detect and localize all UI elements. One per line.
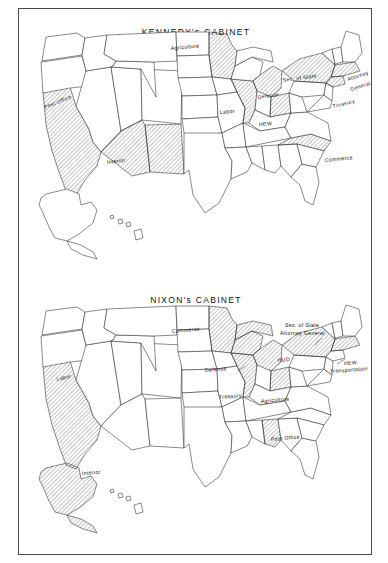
state-mt <box>104 32 177 62</box>
state-pa <box>289 355 326 371</box>
state-nm <box>145 124 184 174</box>
state-ks <box>182 369 218 393</box>
label-commerce: Commerce <box>324 154 353 163</box>
state-al <box>262 419 281 447</box>
label-attorney-general-line2: General <box>349 80 371 92</box>
state-pa <box>289 81 326 97</box>
label-hew: HEW <box>344 359 358 366</box>
state-hi-4 <box>134 503 143 514</box>
state-hi-3 <box>126 222 131 227</box>
state-hi-1 <box>110 489 114 493</box>
page-frame: KENNEDY's CABINET 1960 <box>18 8 372 555</box>
state-mn <box>209 32 237 79</box>
us-map-nixon: #panel-bottom .state.hatched{fill:url(#h… <box>19 283 373 556</box>
map-panel-kennedy: KENNEDY's CABINET 1960 <box>19 9 373 282</box>
state-al <box>262 145 281 173</box>
label-hew: HEW <box>259 120 272 127</box>
state-or <box>41 56 88 93</box>
state-nm <box>145 398 184 448</box>
state-ak-tail <box>67 241 97 259</box>
label-transportation: Transportation <box>330 365 368 374</box>
state-ma <box>331 336 360 351</box>
label-hud: HUD <box>278 356 291 363</box>
us-map-kennedy: Agriculture Post Office Interior Labor D… <box>19 9 373 282</box>
state-ks <box>182 95 218 119</box>
state-ak-tail <box>67 515 97 533</box>
state-ak <box>39 189 97 241</box>
label-attorney-general: Attorney General <box>280 330 325 336</box>
state-hi-3 <box>126 496 131 501</box>
map-panel-nixon: NIXON's CABINET 1968 #panel-bottom .stat… <box>19 283 373 556</box>
state-sd <box>177 55 212 78</box>
state-hi-1 <box>110 215 114 219</box>
label-interior: Interior <box>82 469 101 476</box>
label-treasury: Treasury <box>332 98 356 109</box>
state-mn <box>209 306 237 353</box>
state-hi-4 <box>134 229 143 240</box>
state-me <box>341 305 362 336</box>
label-sec-of-state: Sec. of State <box>285 322 319 328</box>
state-ne <box>178 77 217 96</box>
state-hi-2 <box>118 219 123 224</box>
state-or <box>41 330 88 367</box>
state-mt <box>104 306 177 336</box>
states-layer-kennedy <box>39 31 362 259</box>
state-hi-2 <box>118 493 123 498</box>
state-me <box>341 31 362 62</box>
states-layer-nixon <box>39 305 362 533</box>
